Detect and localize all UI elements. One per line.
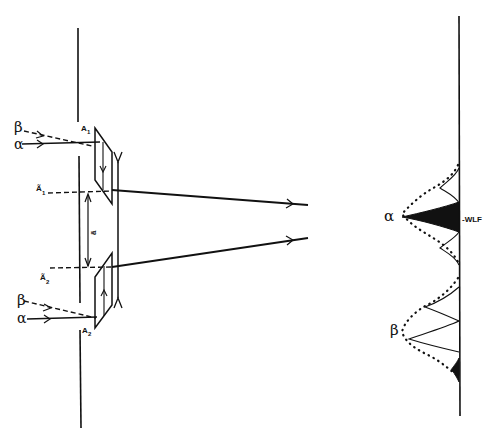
label-beta-profile: β bbox=[390, 321, 399, 339]
white-light-fringe bbox=[402, 202, 459, 232]
label-alpha-top: α bbox=[14, 136, 24, 152]
outgoing-beam-upper bbox=[112, 190, 308, 205]
dark-fringe-bottom bbox=[451, 358, 459, 382]
optical-diagram: β α A 1 Ã 1 ã Ã 2 β α A 2 α β -WLF bbox=[0, 0, 498, 440]
y-fork-top bbox=[114, 152, 122, 162]
label-beta-bottom: β bbox=[17, 291, 26, 309]
left-labels: β α A 1 Ã 1 ã Ã 2 β α A 2 bbox=[14, 118, 98, 337]
outgoing-beam-lower bbox=[112, 238, 308, 267]
envelope-beta bbox=[402, 278, 458, 376]
label-A2-sub: 2 bbox=[88, 331, 92, 337]
left-optical-system bbox=[22, 28, 308, 428]
label-A1-sub: 1 bbox=[87, 129, 91, 135]
screen-line-middle bbox=[79, 156, 80, 303]
beam-beta-bottom-arrow bbox=[43, 304, 51, 311]
screen-line-lower bbox=[80, 330, 81, 428]
beam-alpha-bottom bbox=[27, 317, 97, 319]
label-A1-tilde-sub: 1 bbox=[42, 190, 46, 196]
right-labels: α β -WLF bbox=[384, 207, 482, 339]
label-alpha-bottom: α bbox=[17, 310, 27, 326]
fringe-upper-alpha bbox=[440, 168, 459, 203]
label-a-tilde: ã bbox=[89, 230, 98, 235]
ref-line-a2 bbox=[50, 267, 112, 268]
beam-beta-top-arrow bbox=[36, 131, 43, 138]
beam-alpha-top bbox=[22, 142, 100, 144]
intensity-profile bbox=[402, 16, 460, 416]
beam-beta-bottom bbox=[24, 301, 96, 318]
label-A2-tilde-sub: 2 bbox=[46, 279, 50, 285]
fringe-lower-alpha bbox=[440, 232, 459, 265]
label-alpha-profile: α bbox=[384, 207, 394, 225]
y-fork-bottom bbox=[114, 298, 122, 308]
label-beta-top: β bbox=[14, 118, 23, 136]
fringe-beta-2 bbox=[409, 321, 459, 352]
label-wlf: -WLF bbox=[462, 215, 482, 224]
